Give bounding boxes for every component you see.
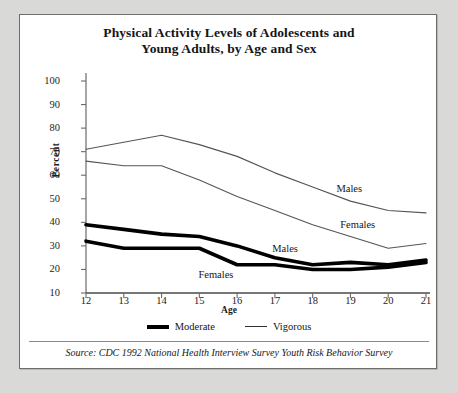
annotation-vigorous-males: Males: [336, 183, 362, 194]
y-tick-label: 80: [34, 123, 60, 133]
x-tick-label: 21: [414, 295, 438, 306]
series-line: [86, 161, 426, 248]
x-tick-label: 17: [263, 295, 287, 306]
chart-legend: Moderate Vigorous: [20, 321, 438, 332]
y-tick-label: 50: [34, 194, 60, 204]
x-axis-tick-labels: 12131415161718192021: [20, 287, 438, 307]
series-line: [86, 225, 426, 265]
y-tick-label: 40: [34, 217, 60, 227]
y-tick-label: 70: [34, 147, 60, 157]
y-axis-ticks: [81, 81, 86, 293]
figure-background: Physical Activity Levels of Adolescents …: [0, 0, 458, 393]
legend-item-moderate: Moderate: [147, 321, 215, 332]
source-divider: [29, 341, 429, 342]
chart-panel: Physical Activity Levels of Adolescents …: [19, 14, 437, 369]
source-note: Source: CDC 1992 National Health Intervi…: [20, 347, 438, 358]
x-tick-label: 20: [376, 295, 400, 306]
x-tick-label: 15: [187, 295, 211, 306]
annotation-moderate-males: Males: [272, 243, 298, 254]
y-tick-label: 60: [34, 170, 60, 180]
y-tick-label: 20: [34, 264, 60, 274]
x-tick-label: 19: [338, 295, 362, 306]
chart-axes: [86, 73, 430, 293]
legend-label-moderate: Moderate: [175, 321, 215, 332]
annotation-vigorous-females: Females: [340, 219, 375, 230]
moderate-line-swatch-icon: [147, 325, 169, 329]
x-tick-label: 12: [74, 295, 98, 306]
x-tick-label: 18: [301, 295, 325, 306]
x-tick-label: 14: [150, 295, 174, 306]
y-axis-tick-labels: 102030405060708090100: [34, 15, 60, 315]
x-tick-label: 13: [112, 295, 136, 306]
x-tick-label: 16: [225, 295, 249, 306]
y-tick-label: 30: [34, 241, 60, 251]
series-line: [86, 135, 426, 213]
vigorous-line-swatch-icon: [245, 326, 267, 327]
legend-item-vigorous: Vigorous: [245, 321, 311, 332]
chart-series: [86, 135, 426, 269]
plot-area: Percent Age 102030405060708090100 121314…: [20, 15, 438, 370]
y-tick-label: 90: [34, 100, 60, 110]
annotation-moderate-females: Females: [198, 269, 233, 280]
legend-label-vigorous: Vigorous: [273, 321, 311, 332]
y-tick-label: 100: [34, 76, 60, 86]
